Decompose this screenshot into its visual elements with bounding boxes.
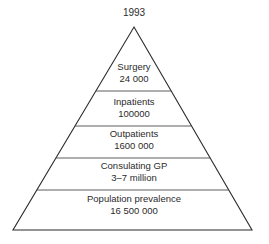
- tier-label-outpatients: Outpatients: [110, 128, 159, 139]
- tier-inpatients: Inpatients 100000: [113, 96, 154, 119]
- tier-label-inpatients: Inpatients: [113, 96, 154, 107]
- tier-value-population-prevalence: 16 500 000: [110, 205, 158, 216]
- tier-label-surgery: Surgery: [117, 61, 151, 72]
- tier-population-prevalence: Population prevalence 16 500 000: [87, 193, 181, 216]
- pyramid-diagram-canvas: 1993 Surgery 24 000 Inpatients 100000 Ou…: [0, 0, 269, 244]
- tier-value-consulating-gp: 3–7 million: [111, 172, 156, 183]
- tier-value-inpatients: 100000: [118, 108, 150, 119]
- tier-label-consulating-gp: Consulating GP: [101, 160, 168, 171]
- tier-outpatients: Outpatients 1600 000: [110, 128, 159, 151]
- figure-title: 1993: [123, 7, 146, 18]
- tier-consulating-gp: Consulating GP 3–7 million: [101, 160, 168, 183]
- tier-value-surgery: 24 000: [119, 73, 148, 84]
- tier-label-population-prevalence: Population prevalence: [87, 193, 181, 204]
- pyramid-figure: 1993 Surgery 24 000 Inpatients 100000 Ou…: [0, 0, 269, 244]
- tier-surgery: Surgery 24 000: [117, 61, 151, 84]
- tier-value-outpatients: 1600 000: [114, 140, 154, 151]
